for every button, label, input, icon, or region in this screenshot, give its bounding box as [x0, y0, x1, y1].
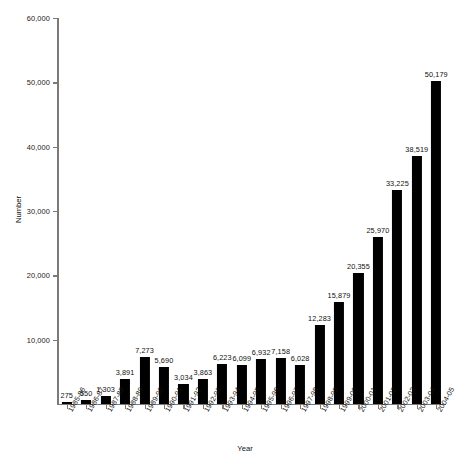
y-axis-tick [53, 340, 57, 341]
bar-group: 50,179 [427, 18, 446, 404]
y-axis-tick-label: 30,000 [6, 207, 50, 216]
x-axis-tick [339, 405, 340, 409]
bar-group: 1,303 [96, 18, 115, 404]
bar-value-label: 38,519 [405, 145, 428, 154]
bar-group: 7,158 [271, 18, 290, 404]
plot-area: 2755501,3033,8917,2735,6903,0343,8636,22… [57, 18, 446, 404]
x-axis-tick [145, 405, 146, 409]
bar-group: 15,879 [329, 18, 348, 404]
x-axis-tick [125, 405, 126, 409]
bar-value-label: 5,690 [155, 356, 174, 365]
bar-value-label: 3,891 [116, 368, 135, 377]
bar-value-label: 50,179 [425, 70, 448, 79]
x-axis-tick [86, 405, 87, 409]
x-axis-tick [378, 405, 379, 409]
bar-group: 25,970 [368, 18, 387, 404]
y-axis-tick-labels: 60,00050,00040,00030,00020,00010,000 [0, 0, 50, 465]
x-axis-tick [261, 405, 262, 409]
bar-group: 7,273 [135, 18, 154, 404]
bar [431, 81, 441, 404]
bar-value-label: 15,879 [328, 291, 351, 300]
x-axis-tick [281, 405, 282, 409]
bar-value-label: 6,099 [232, 354, 251, 363]
x-axis-tick [242, 405, 243, 409]
bar-group: 5,690 [154, 18, 173, 404]
x-axis-tick [417, 405, 418, 409]
x-axis-tick [183, 405, 184, 409]
bar-value-label: 6,223 [213, 353, 232, 362]
y-axis-tick-label: 50,000 [6, 78, 50, 87]
x-axis-tick [106, 405, 107, 409]
bar-group: 12,283 [310, 18, 329, 404]
y-axis-tick [53, 275, 57, 276]
bar [373, 237, 383, 404]
bar-group: 33,225 [388, 18, 407, 404]
bar-value-label: 7,158 [271, 347, 290, 356]
y-axis-tick [53, 18, 57, 19]
bar-group: 275 [57, 18, 76, 404]
bar-group: 3,034 [174, 18, 193, 404]
x-axis-tick [203, 405, 204, 409]
bar-value-label: 6,932 [252, 348, 271, 357]
bar-value-label: 3,863 [193, 368, 212, 377]
x-axis-tick [222, 405, 223, 409]
x-axis-tick [358, 405, 359, 409]
x-axis-tick [67, 405, 68, 409]
y-axis-tick-label: 10,000 [6, 335, 50, 344]
bar-group: 6,223 [213, 18, 232, 404]
bar-group: 6,932 [252, 18, 271, 404]
bar-group: 6,099 [232, 18, 251, 404]
bar-value-label: 20,355 [347, 262, 370, 271]
bar-group: 550 [76, 18, 95, 404]
bar-group: 6,028 [290, 18, 309, 404]
y-axis-tick-label: 60,000 [6, 14, 50, 23]
y-axis-tick-label: 20,000 [6, 271, 50, 280]
bar-group: 20,355 [349, 18, 368, 404]
y-axis-tick [53, 211, 57, 212]
x-axis-tick [164, 405, 165, 409]
bar-group: 38,519 [407, 18, 426, 404]
bar-value-label: 6,028 [291, 354, 310, 363]
bar [237, 365, 247, 404]
bar-group: 3,863 [193, 18, 212, 404]
x-axis-tick [300, 405, 301, 409]
bar-value-label: 25,970 [366, 226, 389, 235]
bar-value-label: 33,225 [386, 179, 409, 188]
y-axis-tick [53, 147, 57, 148]
x-axis-title: Year [0, 444, 466, 453]
bar [412, 156, 422, 404]
y-axis-tick [53, 82, 57, 83]
bar [392, 190, 402, 404]
bar-chart: Number 60,00050,00040,00030,00020,00010,… [0, 0, 466, 465]
x-axis-tick [397, 405, 398, 409]
y-axis-tick-label: 40,000 [6, 142, 50, 151]
bar-value-label: 3,034 [174, 373, 193, 382]
x-axis-tick [436, 405, 437, 409]
bar [353, 273, 363, 404]
bar-value-label: 12,283 [308, 314, 331, 323]
x-axis-tick [320, 405, 321, 409]
bar-value-label: 7,273 [135, 346, 154, 355]
bar-group: 3,891 [115, 18, 134, 404]
